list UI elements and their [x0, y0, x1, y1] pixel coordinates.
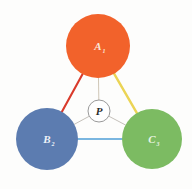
center-node-p[interactable]: P [88, 100, 110, 122]
node-a-subscript: 1 [103, 48, 106, 54]
diagram-svg: A 1 B 2 C 3 P [0, 0, 192, 189]
node-c[interactable]: C 3 [122, 109, 182, 169]
node-c-subscript: 3 [156, 141, 160, 147]
diagram-canvas: A 1 B 2 C 3 P [0, 0, 192, 189]
node-b[interactable]: B 2 [16, 108, 78, 170]
spoke-p-c [109, 116, 126, 125]
node-c-label: C [148, 133, 156, 145]
center-node-label: P [96, 105, 103, 117]
node-b-label: B [42, 133, 50, 145]
node-b-subscript: 2 [51, 141, 55, 147]
node-a-label: A [93, 40, 101, 52]
spoke-p-b [74, 116, 89, 124]
node-a[interactable]: A 1 [66, 14, 130, 78]
edge-a-c [114, 74, 137, 113]
edge-a-b [62, 74, 83, 112]
